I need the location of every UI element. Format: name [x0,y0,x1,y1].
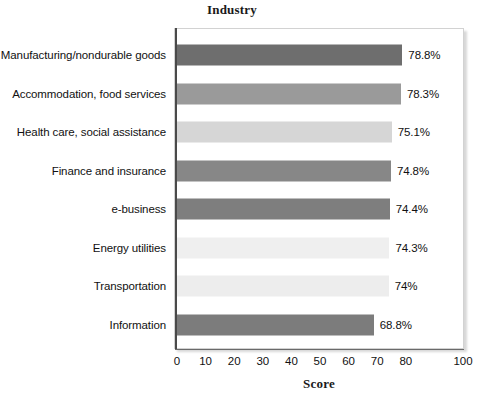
category-label: Accommodation, food services [12,88,166,100]
bar-value-label: 78.3% [407,88,439,100]
bar-value-label: 68.8% [380,319,412,331]
bar-row: Health care, social assistance75.1% [0,113,496,151]
x-axis-tick-label: 100 [443,355,483,367]
bar-row: e-business74.4% [0,190,496,228]
bar-value-label: 74% [395,280,418,292]
category-label: e-business [111,203,166,215]
bar [177,83,401,104]
bar [177,45,402,66]
bar-row: Information68.8% [0,306,496,344]
category-label: Energy utilities [93,242,166,254]
bar-value-label: 74.3% [395,242,427,254]
chart-title: Industry [172,2,292,18]
bar-row: Accommodation, food services78.3% [0,75,496,113]
category-label: Finance and insurance [52,165,166,177]
bar-value-label: 74.8% [397,165,429,177]
bar-row: Transportation74% [0,267,496,305]
bar [177,122,392,143]
x-axis-tick-label: 80 [386,355,426,367]
bar-row: Finance and insurance74.8% [0,152,496,190]
category-label: Information [110,319,166,331]
bar [177,237,389,258]
bar-chart: Industry Manufacturing/nondurable goods7… [0,0,496,406]
bar [177,314,374,335]
x-axis-spine [175,349,464,350]
bar-row: Energy utilities74.3% [0,229,496,267]
category-label: Transportation [94,280,166,292]
bar-value-label: 74.4% [396,203,428,215]
category-label: Manufacturing/nondurable goods [1,49,166,61]
bar-row: Manufacturing/nondurable goods78.8% [0,36,496,74]
x-axis-title: Score [174,376,464,392]
category-label: Health care, social assistance [17,126,166,138]
bar-value-label: 78.8% [408,49,440,61]
bar [177,276,389,297]
bar [177,199,390,220]
bar-value-label: 75.1% [398,126,430,138]
bar [177,160,391,181]
